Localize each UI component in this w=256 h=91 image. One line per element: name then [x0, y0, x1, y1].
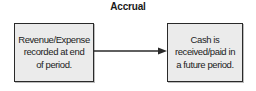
node-text-line: of period. — [18, 59, 90, 72]
node-text-line: Revenue/Expense — [18, 34, 90, 47]
arrow-connector — [94, 46, 167, 56]
diagram-title: Accrual — [0, 1, 256, 12]
node-revenue-expense-recorded: Revenue/Expense recorded at end of perio… — [14, 23, 94, 82]
node-text: Cash is received/paid in a future period… — [175, 34, 235, 72]
arrowhead-icon — [158, 48, 167, 55]
node-text-line: a future period. — [175, 59, 235, 72]
node-text-line: Cash is — [175, 34, 235, 47]
node-cash-received-paid: Cash is received/paid in a future period… — [167, 23, 243, 82]
node-text-line: received/paid in — [175, 46, 235, 59]
node-text: Revenue/Expense recorded at end of perio… — [18, 34, 90, 72]
node-text-line: recorded at end — [18, 46, 90, 59]
